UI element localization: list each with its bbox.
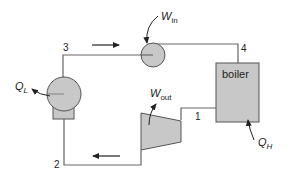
boiler: boiler [216, 63, 259, 122]
w-in-arrow [147, 16, 158, 43]
w-out-label: Wout [150, 87, 172, 102]
state-4-label: 4 [241, 43, 247, 54]
boiler-label: boiler [222, 68, 249, 80]
cycle-diagram: boiler Win Wout QL QH 1 2 3 4 [0, 0, 287, 177]
pipe-turbine-to-2 [64, 119, 141, 165]
condenser [47, 77, 81, 119]
pipe-3-to-pump [63, 55, 141, 78]
q-h-arrow [248, 120, 254, 140]
pump [141, 43, 165, 67]
turbine [141, 113, 181, 150]
q-h-label: QH [258, 136, 273, 151]
q-l-label: QL [15, 80, 28, 95]
w-in-label: Win [161, 10, 178, 25]
state-1-label: 1 [195, 111, 201, 122]
pipe-pump-to-4 [153, 44, 238, 63]
state-3-label: 3 [63, 42, 69, 53]
state-2-label: 2 [54, 159, 60, 170]
